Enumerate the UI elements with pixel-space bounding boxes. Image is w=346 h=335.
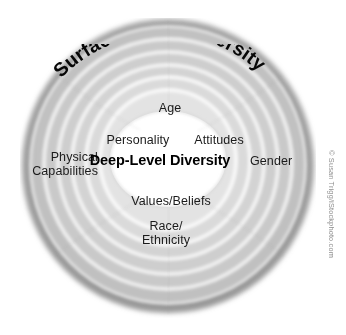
- label-attitudes: Attitudes: [182, 133, 256, 147]
- label-values-beliefs: Values/Beliefs: [120, 194, 222, 208]
- label-layer: Age Personality Attitudes Physical Capab…: [0, 0, 346, 335]
- label-personality: Personality: [98, 133, 178, 147]
- label-race-ethnicity: Race/ Ethnicity: [128, 219, 204, 247]
- copyright-credit: © Susan Trigg/iStockphoto.com: [327, 150, 336, 280]
- label-deep-level-diversity: Deep-Level Diversity: [78, 152, 242, 168]
- label-age: Age: [140, 101, 200, 115]
- label-gender: Gender: [250, 154, 312, 168]
- diversity-onion-figure: Surface-Level Diversity Age Personality …: [0, 0, 346, 335]
